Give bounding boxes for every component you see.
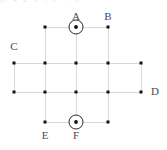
point-label-b: B [98, 11, 118, 22]
point-label-e: E [35, 130, 55, 141]
grid-node [13, 62, 16, 65]
physics-grid-figure: B 4 2 0 , F ? 0 ABCDEF [0, 0, 167, 150]
grid-node [44, 26, 47, 29]
grid-node [107, 26, 110, 29]
grid-node [44, 91, 47, 94]
grid-node [107, 121, 110, 124]
current-direction-dot-icon [74, 25, 78, 29]
grid-node [44, 62, 47, 65]
point-label-d: D [145, 86, 165, 97]
wire-segment-group [14, 27, 141, 122]
grid-node [75, 91, 78, 94]
point-label-a: A [66, 11, 86, 22]
point-label-c: C [4, 41, 24, 52]
point-label-f: F [66, 130, 86, 141]
wire-grid-svg [0, 0, 167, 150]
grid-node [140, 91, 143, 94]
grid-node [75, 62, 78, 65]
grid-node [140, 62, 143, 65]
node-group [13, 26, 143, 124]
grid-node [44, 121, 47, 124]
grid-node [13, 91, 16, 94]
current-direction-dot-icon [74, 120, 78, 124]
grid-node [107, 91, 110, 94]
grid-node [107, 62, 110, 65]
